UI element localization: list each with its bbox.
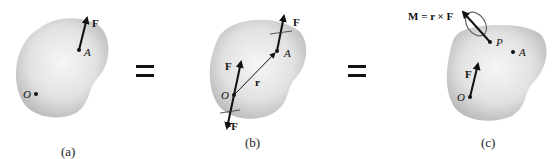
- caption-c: (c): [481, 135, 495, 150]
- label-position-r: r: [255, 76, 260, 88]
- label-origin-o: O: [457, 91, 465, 103]
- point-a-dot: [275, 49, 279, 53]
- label-origin-o: O: [221, 89, 229, 101]
- rigid-body-shape: [16, 18, 108, 117]
- label-moment-equation: M = r × F: [408, 10, 454, 22]
- label-force-f-top: F: [293, 16, 300, 28]
- label-point-a: A: [83, 46, 91, 58]
- panel-c: M = r × F P A F O (c): [408, 8, 547, 150]
- label-point-a: A: [283, 47, 291, 59]
- rigid-body-force-equivalence-diagram: F A O (a) F A F r O −F (b): [0, 0, 559, 159]
- caption-b: (b): [245, 135, 260, 150]
- label-force-f-mid: F: [225, 60, 232, 72]
- point-p-dot: [488, 40, 492, 44]
- panel-b: F A F r O −F (b): [210, 16, 306, 150]
- point-o-dot: [34, 92, 38, 96]
- point-a-dot: [77, 48, 81, 52]
- point-o-dot: [232, 93, 236, 97]
- caption-a: (a): [61, 144, 75, 159]
- equals-sign-1: [136, 65, 154, 77]
- label-origin-o: O: [23, 88, 31, 100]
- panel-a: F A O (a): [16, 17, 108, 159]
- label-neg-force: −F: [225, 120, 238, 132]
- point-o-dot: [468, 95, 472, 99]
- point-a-dot: [511, 50, 515, 54]
- equals-sign-2: [348, 65, 366, 77]
- label-point-p: P: [495, 36, 503, 48]
- label-force-f: F: [92, 17, 99, 29]
- label-force-f: F: [465, 68, 472, 80]
- label-point-a: A: [518, 46, 526, 58]
